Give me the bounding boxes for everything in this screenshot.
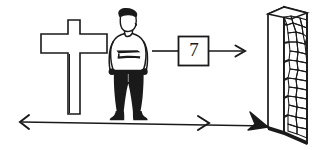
person-trousers bbox=[114, 71, 144, 115]
ground-measurement-line bbox=[20, 112, 268, 130]
cross-outline bbox=[41, 20, 107, 114]
box-to-wall-arrow bbox=[209, 46, 245, 57]
diagram-svg bbox=[0, 0, 313, 150]
cross-monument bbox=[41, 20, 107, 114]
value-box-number: 7 bbox=[182, 40, 206, 59]
standing-person bbox=[109, 8, 148, 120]
diagram-canvas: 7 bbox=[0, 0, 313, 150]
ground-line bbox=[22, 122, 268, 126]
stone-wall bbox=[268, 7, 307, 145]
person-shoe-left bbox=[110, 111, 125, 120]
person-head bbox=[120, 14, 136, 31]
wall-side-face bbox=[268, 7, 284, 133]
ground-arrow-to-wall bbox=[248, 112, 268, 130]
ground-arrow-mid bbox=[198, 116, 209, 130]
person-shoe-right bbox=[133, 111, 148, 120]
